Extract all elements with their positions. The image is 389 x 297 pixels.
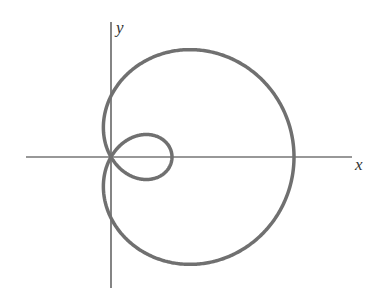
limacon-diagram: y x <box>0 0 389 297</box>
plot-canvas <box>0 0 389 297</box>
x-axis-label: x <box>355 155 363 175</box>
y-axis-label: y <box>116 18 124 38</box>
